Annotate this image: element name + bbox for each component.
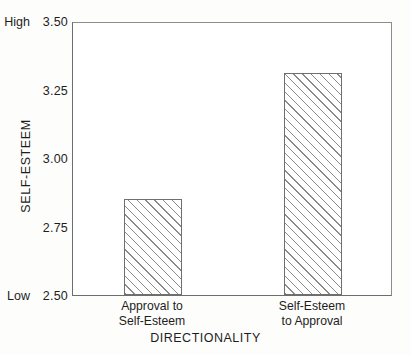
x-axis-tick-label-line: to Approval — [279, 314, 345, 329]
plot-area — [72, 22, 392, 296]
x-axis-tick-label: Approval toSelf-Esteem — [119, 299, 185, 328]
y-axis-anchor-low: Low — [0, 289, 30, 303]
y-axis-anchor-high: High — [0, 15, 30, 29]
x-axis-title: DIRECTIONALITY — [0, 331, 411, 345]
x-axis-tick-label-line: Self-Esteem — [279, 299, 345, 314]
y-axis-tick-label: 3.00 — [43, 152, 68, 166]
bar-chart-figure: SELF-ESTEEM HighLow 3.503.253.002.752.50… — [0, 0, 411, 355]
y-axis-tick-label: 3.25 — [43, 84, 68, 98]
x-axis-tick-label-line: Approval to — [119, 299, 185, 314]
y-axis-tick-label: 2.50 — [43, 289, 68, 303]
y-axis-tick-label: 2.75 — [43, 221, 68, 235]
y-axis-tick-label: 3.50 — [43, 15, 68, 29]
bar — [284, 73, 342, 295]
x-axis-tick-label: Self-Esteemto Approval — [279, 299, 345, 328]
x-axis-tick-label-line: Self-Esteem — [119, 314, 185, 329]
bar — [124, 199, 182, 295]
y-axis-tick-labels: 3.503.253.002.752.50 — [28, 0, 68, 355]
